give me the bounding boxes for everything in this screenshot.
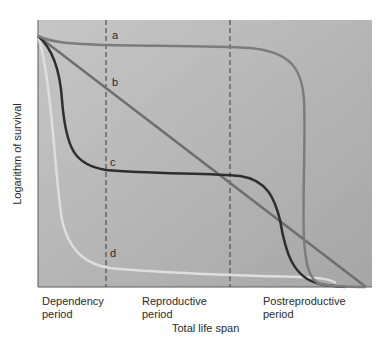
curve-label-d: d — [110, 247, 116, 260]
curve-label-b: b — [112, 76, 118, 89]
survivorship-chart — [0, 0, 388, 345]
period-label-line: Reproductive — [142, 295, 207, 308]
curve-label-c: c — [110, 156, 116, 169]
period-label-postreproductive: Postreproductive period — [263, 295, 346, 321]
period-label-line: Dependency — [42, 295, 104, 308]
period-label-reproductive: Reproductive period — [142, 295, 207, 321]
period-label-line: Postreproductive — [263, 295, 346, 308]
plot-area — [38, 20, 372, 287]
period-label-line: period — [263, 308, 346, 321]
period-label-line: period — [142, 308, 207, 321]
y-axis-label: Logarithm of survival — [11, 99, 23, 209]
period-label-line: period — [42, 308, 104, 321]
curve-label-a: a — [112, 29, 118, 42]
period-label-dependency: Dependency period — [42, 295, 104, 321]
x-axis-label: Total life span — [172, 322, 239, 335]
